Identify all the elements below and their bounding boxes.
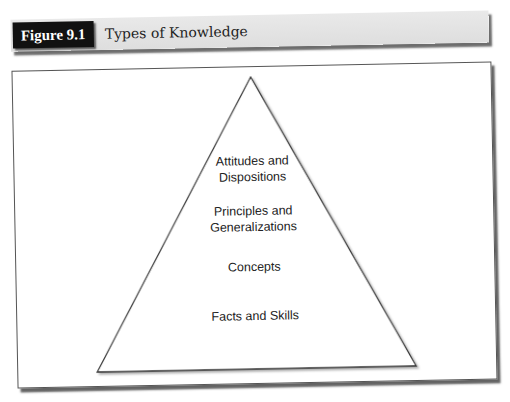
pyramid-level-principles: Principles and Generalizations bbox=[163, 201, 344, 236]
pyramid-level-attitudes: Attitudes and Dispositions bbox=[162, 151, 343, 186]
figure-header: Figure 9.1 Types of Knowledge bbox=[10, 10, 489, 51]
figure-title: Types of Knowledge bbox=[105, 18, 249, 47]
diagram-frame: Attitudes and Dispositions Principles an… bbox=[11, 61, 497, 388]
figure-number-label: Figure 9.1 bbox=[13, 21, 94, 49]
figure: Figure 9.1 Types of Knowledge Attitudes … bbox=[0, 0, 510, 402]
